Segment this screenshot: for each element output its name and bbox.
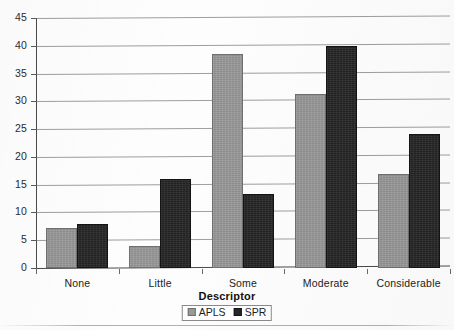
x-axis-title: Descriptor: [0, 290, 454, 302]
bar-texture: [410, 135, 439, 267]
y-axis-label: 40: [5, 39, 27, 51]
y-axis-tick: [31, 18, 37, 19]
bar-texture: [161, 180, 190, 267]
legend-item-spr: SPR: [234, 307, 267, 318]
bar-texture: [379, 175, 408, 267]
bar-apls-moderate: [295, 94, 326, 268]
x-axis-tick: [284, 269, 285, 274]
bar-apls-none: [46, 228, 77, 268]
legend-item-apls: APLS: [188, 307, 226, 318]
x-axis-tick: [367, 269, 368, 274]
chart-title-cropped: [150, 0, 320, 4]
gridline: [36, 15, 450, 19]
bar-texture: [244, 195, 273, 267]
y-axis-tick: [31, 74, 37, 75]
legend-label-spr: SPR: [245, 307, 267, 318]
bar-texture: [78, 225, 107, 267]
bar-apls-some: [212, 54, 243, 268]
y-axis-label: 25: [5, 122, 27, 134]
gridline: [36, 43, 450, 47]
y-axis-tick: [31, 212, 37, 213]
y-axis-label: 20: [5, 150, 27, 162]
y-axis-tick: [31, 185, 37, 186]
x-axis-tick: [450, 269, 451, 274]
x-axis-tick-origin: [36, 269, 37, 274]
bar-texture: [327, 47, 356, 267]
grouped-bar-chart: Descriptor APLS SPR 051015202530354045No…: [0, 0, 454, 330]
bar-texture: [296, 95, 325, 267]
bar-texture: [130, 247, 159, 267]
legend-label-apls: APLS: [199, 307, 226, 318]
y-axis-tick: [31, 101, 37, 102]
chart-legend: APLS SPR: [182, 305, 272, 321]
bar-apls-considerable: [378, 174, 409, 268]
spr-swatch-icon: [234, 308, 242, 316]
bar-spr-considerable: [409, 134, 440, 268]
x-axis-tick: [202, 269, 203, 274]
y-axis-tick: [31, 157, 37, 158]
x-axis-tick: [119, 269, 120, 274]
y-axis-label: 30: [5, 94, 27, 106]
plot-area: [36, 18, 450, 268]
y-axis-label: 0: [5, 261, 27, 273]
bar-spr-none: [77, 224, 108, 268]
bar-spr-some: [243, 194, 274, 268]
y-axis-label: 10: [5, 205, 27, 217]
x-axis-category-label: Considerable: [359, 277, 454, 289]
y-axis-tick: [31, 46, 37, 47]
page-footer-rule: [0, 325, 454, 326]
bar-spr-little: [160, 179, 191, 268]
y-axis-label: 35: [5, 67, 27, 79]
apls-swatch-icon: [188, 308, 196, 316]
scanned-page: Descriptor APLS SPR 051015202530354045No…: [0, 0, 454, 330]
bar-texture: [213, 55, 242, 267]
y-axis-tick: [31, 240, 37, 241]
y-axis-label: 15: [5, 178, 27, 190]
y-axis-label: 5: [5, 233, 27, 245]
bar-texture: [47, 229, 76, 267]
y-axis-line: [36, 18, 37, 269]
bar-spr-moderate: [326, 46, 357, 268]
y-axis-tick: [31, 129, 37, 130]
bar-apls-little: [129, 246, 160, 268]
y-axis-label: 45: [5, 11, 27, 23]
